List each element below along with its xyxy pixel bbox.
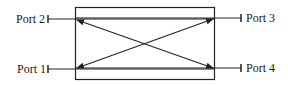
port-1-label: Port 1 [17, 62, 46, 76]
port-2-line [48, 15, 214, 23]
port-2-label: Port 2 [16, 12, 45, 26]
port-1-line [48, 65, 214, 73]
port-4-line [76, 64, 241, 72]
port-4-label: Port 4 [246, 61, 275, 75]
port-3-line [76, 14, 241, 22]
port-3-label: Port 3 [246, 11, 275, 25]
coupler-diagram: Port 2 Port 1 Port 3 Port 4 [0, 0, 288, 85]
